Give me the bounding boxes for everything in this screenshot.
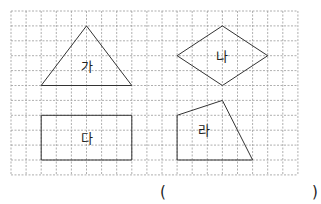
shape-label-da: 다: [81, 131, 93, 146]
answer-open-paren: (: [160, 185, 166, 200]
shape-label-ga: 가: [81, 59, 93, 74]
shape-label-na: 나: [216, 49, 228, 64]
shapes-layer: 가나다라: [41, 26, 268, 160]
answer-close-paren: ): [312, 185, 318, 200]
answer-blank[interactable]: [170, 182, 310, 202]
shape-da: 다: [41, 115, 132, 160]
grid-lines: [11, 11, 298, 175]
grid-figure: 가나다라: [0, 0, 321, 180]
shape-label-ra: 라: [198, 123, 210, 138]
